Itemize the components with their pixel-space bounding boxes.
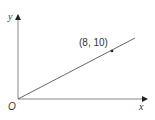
graph xyxy=(0,0,155,120)
line xyxy=(18,38,135,99)
y-axis-label: y xyxy=(8,11,12,22)
point-marker xyxy=(111,50,114,53)
point-label: (8, 10) xyxy=(79,37,108,48)
origin-label: O xyxy=(8,101,16,112)
x-axis-label: x xyxy=(139,101,143,112)
